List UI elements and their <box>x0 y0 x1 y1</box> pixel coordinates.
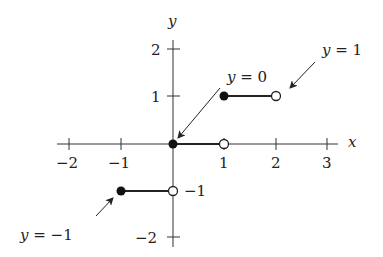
arrow-y-minus-1 <box>96 198 113 216</box>
arrow-y-0 <box>178 88 220 138</box>
x-tick-label: 3 <box>322 154 332 172</box>
annotation-y-0: y = 0 <box>226 68 267 86</box>
y-tick-label: −2 <box>135 229 157 247</box>
segment-y-0 <box>169 140 229 149</box>
x-tick-label: 2 <box>271 154 281 172</box>
segment-y-minus-1 <box>117 187 178 196</box>
arrow-y-1 <box>290 62 315 88</box>
segment-y-1 <box>220 92 281 101</box>
x-tick-label: 1 <box>219 154 229 172</box>
x-tick-label: −2 <box>56 154 78 172</box>
y-tick-label: 2 <box>151 41 161 59</box>
x-axis-label: x <box>348 133 357 151</box>
y-tick-label: 1 <box>151 88 161 106</box>
y-tick-label: −1 <box>184 182 206 200</box>
step-function-plot: −2 −1 1 2 3 2 1 −1 −2 x y y = 1 y = 0 y … <box>0 0 383 257</box>
y-axis-label: y <box>167 12 177 30</box>
annotation-y-1: y = 1 <box>321 41 362 59</box>
x-tick-label: −1 <box>108 154 130 172</box>
annotation-y-minus-1: y = −1 <box>19 226 73 244</box>
